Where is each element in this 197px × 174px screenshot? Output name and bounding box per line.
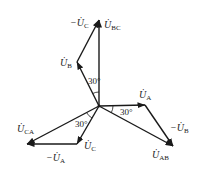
vector-neg-u-b (145, 105, 173, 146)
label-u-a: U̇A (139, 89, 151, 102)
label-u-bc: U̇BC (104, 19, 121, 32)
angle-label: 30° (75, 119, 88, 129)
label-neg-u-a: −U̇A (46, 152, 65, 165)
vector-u-a (99, 105, 145, 106)
label-u-ab: U̇AB (152, 149, 169, 162)
angle-arc-ua-uab (111, 106, 113, 113)
vector-u-ab (99, 106, 173, 146)
label-u-ca: U̇CA (17, 123, 34, 136)
label-u-c: U̇C (84, 140, 96, 153)
origin-point (98, 105, 101, 108)
phasor-diagram: U̇BCU̇B−U̇CU̇AU̇AB−U̇BU̇CU̇CA−U̇A 30°30°… (0, 0, 197, 174)
angle-label: 30° (120, 107, 133, 117)
angle-arc-ub-ubc (93, 92, 99, 94)
label-u-b: U̇B (60, 57, 72, 70)
label-neg-u-c: −U̇C (70, 17, 89, 30)
label-neg-u-b: −U̇B (170, 122, 189, 135)
vector-labels: U̇BCU̇B−U̇CU̇AU̇AB−U̇BU̇CU̇CA−U̇A (17, 17, 189, 165)
angle-arc-uc-uca (87, 113, 92, 118)
angle-labels: 30°30°30° (75, 76, 133, 129)
angle-label: 30° (88, 76, 101, 86)
